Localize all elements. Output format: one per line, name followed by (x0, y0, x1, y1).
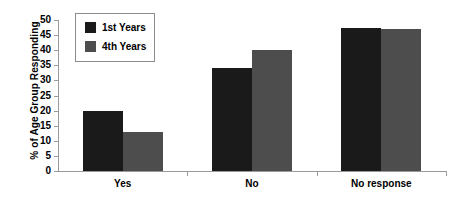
y-axis-tick-label: 5 (45, 149, 51, 162)
y-axis-tick: 25 (54, 96, 59, 97)
legend-entry-4th-years: 4th Years (85, 41, 146, 52)
chart-legend: 1st Years 4th Years (75, 13, 155, 62)
y-axis-tick-label: 25 (40, 89, 51, 102)
legend-swatch-icon-4th-years (85, 41, 96, 52)
y-axis-tick: 5 (54, 156, 59, 157)
x-axis-tick (187, 171, 188, 176)
bar-yes-4th-years (123, 132, 163, 171)
bar-no-response-4th-years (381, 29, 421, 171)
y-axis-tick-label: 0 (45, 164, 51, 177)
x-axis-label-no: No (245, 178, 258, 189)
y-axis-tick: 50 (54, 20, 59, 21)
y-axis-title: % of Age Group Responding (29, 11, 40, 171)
y-axis-tick: 30 (54, 80, 59, 81)
y-axis-tick-label: 40 (40, 43, 51, 56)
bar-yes-1st-years (83, 111, 123, 171)
x-axis-tick (317, 171, 318, 176)
y-axis-tick: 15 (54, 126, 59, 127)
y-axis-tick-label: 10 (40, 134, 51, 147)
x-axis-label-no-response: No response (351, 178, 412, 189)
y-axis-tick: 10 (54, 141, 59, 142)
y-axis-tick: 45 (54, 35, 59, 36)
x-axis-tick (446, 171, 447, 176)
legend-label-1st-years: 1st Years (102, 22, 146, 33)
y-axis-tick: 0 (54, 171, 59, 172)
legend-swatch-icon-1st-years (85, 22, 96, 33)
legend-entry-1st-years: 1st Years (85, 22, 146, 33)
y-axis-tick-label: 30 (40, 73, 51, 86)
y-axis-tick-label: 45 (40, 28, 51, 41)
y-axis-tick: 35 (54, 65, 59, 66)
y-axis-tick-label: 20 (40, 104, 51, 117)
y-axis-tick-label: 35 (40, 58, 51, 71)
bar-no-1st-years (212, 68, 252, 171)
y-axis-tick: 40 (54, 50, 59, 51)
bar-no-response-1st-years (341, 28, 381, 171)
y-axis-tick-label: 15 (40, 119, 51, 132)
legend-label-4th-years: 4th Years (102, 41, 146, 52)
x-axis-label-yes: Yes (114, 178, 131, 189)
x-axis-line (58, 171, 446, 172)
y-axis-tick: 20 (54, 111, 59, 112)
bar-chart: % of Age Group Responding 50454035302520… (0, 0, 470, 207)
y-axis-tick-label: 50 (40, 13, 51, 26)
bar-no-4th-years (252, 50, 292, 171)
